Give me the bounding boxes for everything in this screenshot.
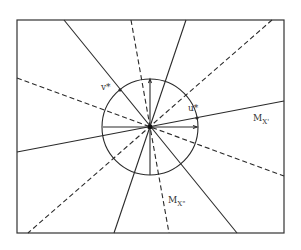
center-point xyxy=(148,125,153,130)
label-mx-double-prime: MX" xyxy=(168,196,185,205)
label-mx-prime-sub: X' xyxy=(262,118,269,126)
u-star-point xyxy=(195,116,198,119)
label-u-star: u* xyxy=(188,104,198,113)
label-mx-double-prime-sub: X" xyxy=(177,200,185,208)
label-mx-prime-main: M xyxy=(253,113,262,123)
label-mx-prime: MX' xyxy=(253,114,269,123)
label-v-star: v* xyxy=(101,83,111,92)
diagram-canvas xyxy=(0,0,301,250)
v-star-point xyxy=(118,88,121,91)
label-mx-double-prime-main: M xyxy=(168,195,177,205)
